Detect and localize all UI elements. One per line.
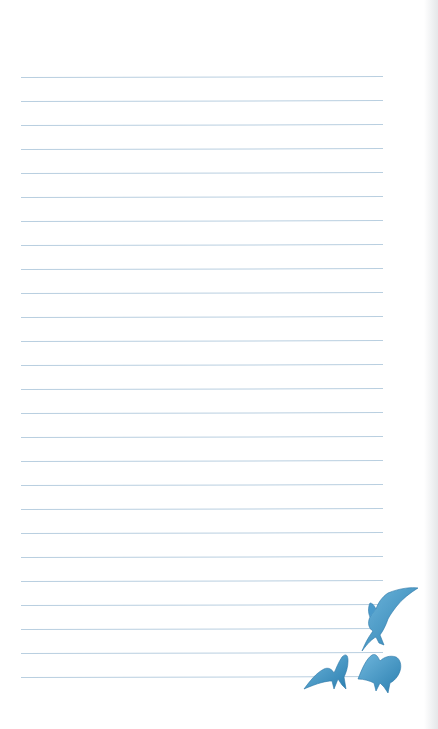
ruled-line <box>21 412 383 414</box>
ruled-line <box>21 388 383 390</box>
ruled-line <box>21 148 383 150</box>
bird-icon <box>362 588 418 651</box>
ruled-line <box>21 124 383 126</box>
ruled-line <box>21 100 383 102</box>
ruled-line <box>21 436 383 438</box>
ruled-line <box>21 172 383 174</box>
ruled-line <box>21 460 383 462</box>
ruled-line <box>21 484 383 486</box>
ruled-line <box>21 292 383 294</box>
ruled-line <box>21 580 383 582</box>
bird-icon <box>358 654 401 693</box>
ruled-line <box>21 76 383 78</box>
ruled-line <box>21 556 383 558</box>
birds-illustration <box>290 585 430 695</box>
ruled-line <box>21 316 383 318</box>
ruled-line <box>21 244 383 246</box>
ruled-line <box>21 340 383 342</box>
bird-icon <box>304 655 348 689</box>
ruled-line <box>21 532 383 534</box>
lined-paper <box>0 0 438 729</box>
ruled-line <box>21 268 383 270</box>
ruled-line <box>21 196 383 198</box>
ruled-line <box>21 220 383 222</box>
ruled-line <box>21 508 383 510</box>
ruled-line <box>21 364 383 366</box>
